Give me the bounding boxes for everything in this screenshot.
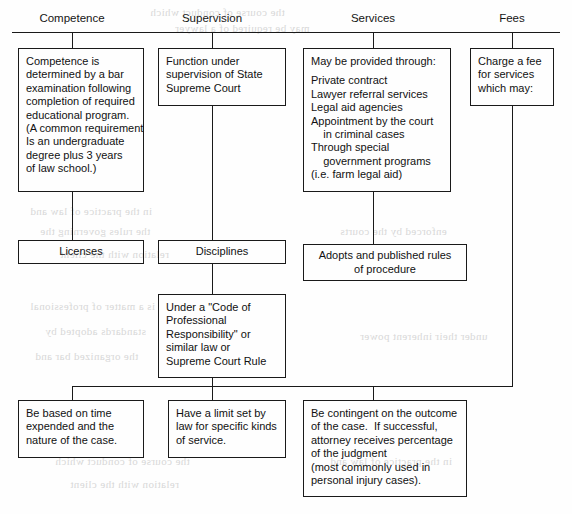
- diagram-canvas: the course of conduct which may be requi…: [0, 0, 572, 514]
- box-line: Licenses: [59, 245, 102, 258]
- box-line: Be based on time: [26, 407, 136, 420]
- box-line: nature of the case.: [26, 434, 136, 447]
- bleed-through-text: the rules governing the: [40, 225, 150, 237]
- connector-supervision-to-disciplines: [212, 106, 213, 240]
- box-line: personal injury cases).: [311, 474, 459, 487]
- box-line: of the case. If successful,: [311, 420, 459, 433]
- box-line: attorney receives percentage: [311, 434, 459, 447]
- box-line: (most commonly used in: [311, 461, 459, 474]
- box-line: for services: [478, 68, 546, 81]
- box-line: degree plus 3 years: [26, 149, 136, 162]
- box-line: completion of required: [26, 95, 136, 108]
- connector-competence-stem: [72, 32, 73, 48]
- box-line: Private contract: [311, 74, 443, 87]
- fees-detail-box: Charge a fee for services which may:: [470, 48, 554, 106]
- fee-time-based-box: Be based on time expended and the nature…: [18, 400, 144, 458]
- box-line: which may:: [478, 82, 546, 95]
- column-header-competence: Competence: [22, 12, 122, 24]
- supervision-detail-box: Function under supervision of State Supr…: [158, 48, 286, 106]
- box-line: expended and the: [26, 420, 136, 433]
- box-line: of law school.): [26, 162, 136, 175]
- code-of-responsibility-box: Under a "Code of Professional Responsibi…: [158, 294, 286, 378]
- box-line: Legal aid agencies: [311, 101, 443, 114]
- box-line: law for specific kinds: [176, 420, 278, 433]
- box-line: Supreme Court Rule: [166, 355, 278, 368]
- box-line: Have a limit set by: [176, 407, 278, 420]
- services-detail-box: May be provided through: Private contrac…: [303, 48, 451, 192]
- box-line: Professional: [166, 314, 278, 327]
- box-line: (A common requirement: [26, 122, 136, 135]
- bleed-through-text: enforced by the courts: [340, 225, 447, 237]
- box-line: Disciplines: [196, 245, 249, 258]
- fee-contingent-box: Be contingent on the outcome of the case…: [303, 400, 467, 497]
- box-line: Is an undergraduate: [26, 135, 136, 148]
- box-line: supervision of State: [166, 68, 278, 81]
- box-line: May be provided through:: [311, 55, 443, 68]
- box-line: Function under: [166, 55, 278, 68]
- box-line: similar law or: [166, 341, 278, 354]
- box-line: Be contingent on the outcome: [311, 407, 459, 420]
- bleed-through-text: relation with the client: [70, 478, 179, 490]
- box-line: Adopts and published rules: [319, 249, 452, 262]
- connector-code-to-bottom-row: [212, 378, 213, 400]
- connector-fees-trunk: [512, 106, 513, 386]
- box-line: (i.e. farm legal aid): [311, 168, 443, 181]
- bleed-through-text: standards adopted by: [45, 325, 146, 337]
- box-line: examination following: [26, 82, 136, 95]
- box-line: government programs: [311, 155, 443, 168]
- connector-services-stem: [373, 32, 374, 48]
- connector-supervision-stem: [212, 32, 213, 48]
- connector-services-to-rules: [373, 192, 374, 244]
- column-header-fees: Fees: [472, 12, 552, 24]
- box-line: Competence is: [26, 55, 136, 68]
- connector-bar-to-fee-contingent: [373, 386, 374, 400]
- box-line: determined by a bar: [26, 68, 136, 81]
- bleed-through-text: under their inherent power: [360, 330, 487, 342]
- connector-disciplines-to-code: [212, 264, 213, 294]
- box-line: Lawyer referral services: [311, 88, 443, 101]
- connector-competence-to-licenses: [72, 192, 73, 240]
- box-line: educational program.: [26, 109, 136, 122]
- box-line: Responsibility" or: [166, 328, 278, 341]
- column-header-services: Services: [323, 12, 423, 24]
- connector-fees-stem: [512, 32, 513, 48]
- box-line: Supreme Court: [166, 82, 278, 95]
- header-divider-rule: [12, 32, 560, 33]
- box-line: Under a "Code of: [166, 301, 278, 314]
- fee-statutory-limit-box: Have a limit set by law for specific kin…: [168, 400, 286, 458]
- column-header-supervision: Supervision: [162, 12, 262, 24]
- bottom-distribution-bar: [72, 386, 513, 387]
- box-line: Appointment by the court: [311, 115, 443, 128]
- licenses-box: Licenses: [18, 240, 144, 264]
- bleed-through-text: the organized bar and: [35, 350, 138, 362]
- box-line: of the judgment: [311, 447, 459, 460]
- box-line: of service.: [176, 434, 278, 447]
- bleed-through-text: in the practice of law and: [30, 205, 152, 217]
- disciplines-box: Disciplines: [158, 240, 286, 264]
- bleed-through-text: is a matter of professional: [30, 300, 155, 312]
- box-line: Through special: [311, 141, 443, 154]
- box-line: in criminal cases: [311, 128, 443, 141]
- connector-bar-to-fee-time-based: [72, 386, 73, 400]
- competence-detail-box: Competence is determined by a bar examin…: [18, 48, 144, 192]
- box-line: of procedure: [354, 263, 416, 276]
- rules-of-procedure-box: Adopts and published rules of procedure: [303, 244, 467, 281]
- box-line: Charge a fee: [478, 55, 546, 68]
